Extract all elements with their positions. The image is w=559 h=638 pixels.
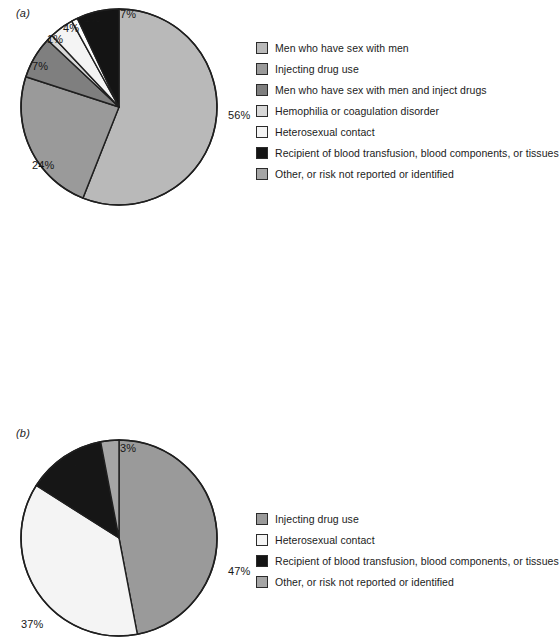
pie-chart-a: 56%24%7%1%4%1%7% <box>16 6 252 211</box>
legend-item-label: Recipient of blood transfusion, blood co… <box>275 555 559 567</box>
pie-b-svg <box>16 438 252 638</box>
legend-item: Recipient of blood transfusion, blood co… <box>256 551 559 570</box>
legend-swatch-icon <box>256 513 268 525</box>
pie-percent-label: 37% <box>21 618 43 630</box>
legend-item-label: Other, or risk not reported or identifie… <box>275 168 454 180</box>
legend-a: Men who have sex with menInjecting drug … <box>256 38 559 185</box>
legend-swatch-icon <box>256 534 268 546</box>
pie-percent-label: 7% <box>32 60 48 72</box>
pie-percent-label: 4% <box>63 22 79 34</box>
legend-item: Men who have sex with men and inject dru… <box>256 80 559 99</box>
pie-percent-label: 24% <box>32 159 54 171</box>
pie-chart-b: 47%37%13%3% <box>16 438 252 638</box>
legend-swatch-icon <box>256 168 268 180</box>
legend-item: Heterosexual contact <box>256 530 559 549</box>
legend-item: Men who have sex with men <box>256 38 559 57</box>
legend-item: Injecting drug use <box>256 59 559 78</box>
legend-item: Recipient of blood transfusion, blood co… <box>256 143 559 162</box>
legend-swatch-icon <box>256 42 268 54</box>
legend-item: Injecting drug use <box>256 509 559 528</box>
legend-item-label: Heterosexual contact <box>275 126 375 138</box>
legend-item-label: Men who have sex with men and inject dru… <box>275 84 487 96</box>
pie-percent-label: 56% <box>228 109 250 121</box>
legend-item: Other, or risk not reported or identifie… <box>256 572 559 591</box>
legend-swatch-icon <box>256 576 268 588</box>
legend-item-label: Men who have sex with men <box>275 42 409 54</box>
pie-percent-label: 1% <box>47 33 63 45</box>
legend-swatch-icon <box>256 84 268 96</box>
panel-a: (a) 56%24%7%1%4%1%7% Men who have sex wi… <box>0 0 531 210</box>
pie-percent-label: 7% <box>120 8 136 20</box>
pie-percent-label: 3% <box>120 442 136 454</box>
pie-slice <box>119 440 217 634</box>
legend-swatch-icon <box>256 555 268 567</box>
legend-item-label: Other, or risk not reported or identifie… <box>275 576 454 588</box>
legend-item-label: Recipient of blood transfusion, blood co… <box>275 147 559 159</box>
legend-swatch-icon <box>256 147 268 159</box>
legend-item-label: Hemophilia or coagulation disorder <box>275 105 439 117</box>
legend-swatch-icon <box>256 105 268 117</box>
pie-percent-label: 47% <box>228 565 250 577</box>
pie-percent-label: 1% <box>84 12 100 24</box>
legend-item-label: Injecting drug use <box>275 63 359 75</box>
legend-swatch-icon <box>256 63 268 75</box>
legend-b: Injecting drug useHeterosexual contactRe… <box>256 509 559 593</box>
legend-swatch-icon <box>256 126 268 138</box>
legend-item-label: Injecting drug use <box>275 513 359 525</box>
legend-item: Other, or risk not reported or identifie… <box>256 164 559 183</box>
legend-item: Heterosexual contact <box>256 122 559 141</box>
legend-item-label: Heterosexual contact <box>275 534 375 546</box>
panel-b: (b) 47%37%13%3% Injecting drug useHetero… <box>0 210 531 421</box>
pie-percent-label: 13% <box>66 460 88 472</box>
legend-item: Hemophilia or coagulation disorder <box>256 101 559 120</box>
